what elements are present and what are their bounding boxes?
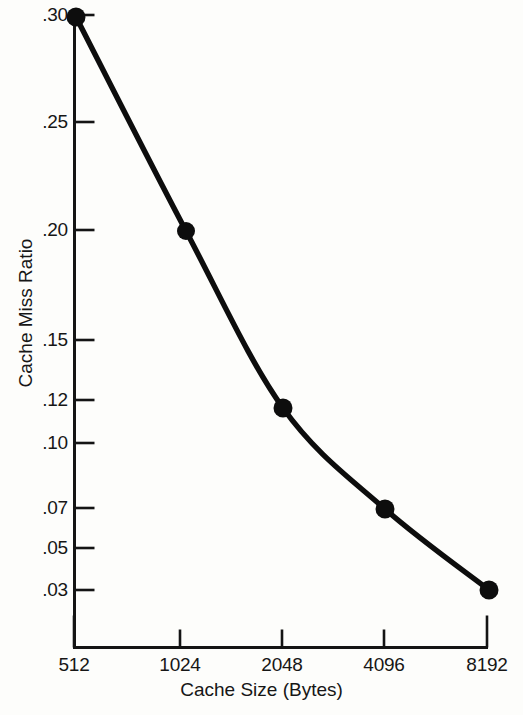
x-axis-tick-label: 1024 [135,654,225,676]
data-curve [76,17,489,590]
y-axis-tick-label: .10 [18,432,68,454]
x-axis-tick-label: 4096 [339,654,429,676]
y-axis-title: Cache Miss Ratio [15,203,37,423]
data-point-markers [67,8,499,600]
y-axis-tick-label: .03 [18,579,68,601]
data-point-marker [274,399,293,418]
data-point-marker [67,8,86,27]
x-axis-ticks [74,616,487,648]
x-axis-tick-label: 8192 [442,654,523,676]
x-axis-tick-label: 2048 [237,654,327,676]
y-axis-ticks [75,15,95,590]
y-axis-tick-label: .07 [18,497,68,519]
data-point-marker [480,581,499,600]
y-axis-tick-label: .25 [18,111,68,133]
data-point-marker [177,222,195,240]
chart-plot-area [0,0,523,715]
x-axis-title: Cache Size (Bytes) [0,679,523,701]
y-axis-tick-label: .30 [18,4,68,26]
chart-figure: .30.25.20.15.12.10.07.05.03 512102420484… [0,0,523,715]
data-point-marker [376,500,395,519]
x-axis-tick-label: 512 [29,654,119,676]
y-axis-tick-label: .05 [18,537,68,559]
